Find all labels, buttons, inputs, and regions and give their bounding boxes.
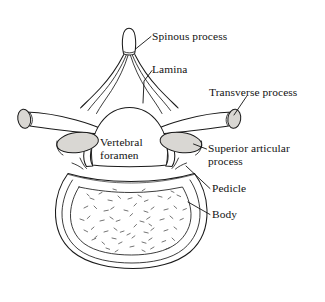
label-vertebral-foramen: Vertebralforamen: [100, 136, 143, 162]
figure-canvas: Spinous process Lamina Transverse proces…: [0, 0, 325, 302]
label-lamina: Lamina: [152, 63, 187, 76]
vertebral-body-shape: [55, 174, 207, 269]
label-superior-articular-line1: Superior articular: [208, 142, 290, 154]
label-superior-articular-line2: process: [208, 155, 243, 167]
transverse-process-left: [17, 108, 101, 133]
label-body: Body: [212, 208, 237, 221]
leader-spinous-process: [136, 37, 152, 50]
spinous-process-shape: [122, 28, 135, 55]
label-transverse-process: Transverse process: [209, 86, 297, 99]
transverse-process-right: [158, 108, 242, 133]
label-spinous-process: Spinous process: [152, 30, 227, 43]
label-vertebral-foramen-line2: foramen: [100, 149, 139, 161]
label-vertebral-foramen-line1: Vertebral: [100, 136, 143, 148]
leader-transverse-process: [234, 97, 247, 116]
label-pedicle: Pedicle: [212, 182, 246, 195]
label-superior-articular-process: Superior articularprocess: [208, 142, 290, 168]
